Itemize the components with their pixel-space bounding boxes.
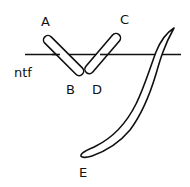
- label-b: B: [66, 83, 75, 96]
- label-d: D: [92, 83, 102, 96]
- label-c: C: [120, 13, 129, 26]
- capsule-ab: [42, 34, 86, 78]
- diagram-canvas: A C ntf B D E: [0, 0, 190, 187]
- label-ntf: ntf: [14, 66, 32, 79]
- label-a: A: [41, 15, 50, 28]
- label-e: E: [79, 166, 87, 179]
- capsule-cd: [83, 32, 122, 76]
